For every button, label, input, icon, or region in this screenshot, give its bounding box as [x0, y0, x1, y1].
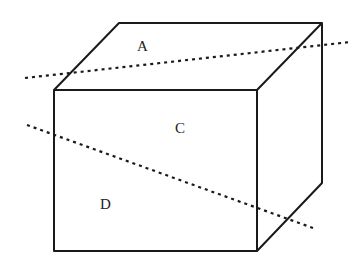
lower-dotted-line — [27, 125, 313, 228]
cuboid-outline — [54, 23, 322, 251]
top-face-edges — [54, 23, 322, 90]
cuboid-diagram: A C D — [0, 0, 364, 264]
label-d: D — [100, 196, 111, 212]
label-c: C — [175, 120, 185, 136]
front-face — [54, 90, 257, 251]
label-a: A — [137, 38, 148, 54]
upper-dotted-line — [25, 42, 350, 78]
